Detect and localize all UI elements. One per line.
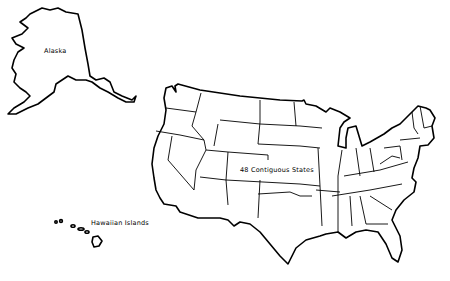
us-outline-map: Alaska Hawaiian Islands 48 Contiguous St… — [0, 0, 450, 281]
alaska-label: Alaska — [44, 47, 66, 55]
map-graphic — [0, 0, 450, 281]
contiguous-us-label: 48 Contiguous States — [240, 166, 314, 174]
alaska-shape — [8, 8, 136, 114]
hawaii-label: Hawaiian Islands — [91, 219, 149, 227]
contiguous-us-shape — [152, 84, 435, 264]
